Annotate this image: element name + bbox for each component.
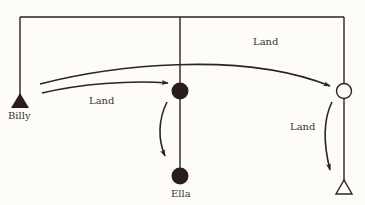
kinship-lines xyxy=(20,17,344,192)
inheritance-diagram: Billy Ella Land Land Land xyxy=(0,0,365,205)
billy-node-triangle-icon xyxy=(11,93,29,108)
right-child-node-open-triangle-icon xyxy=(336,180,352,194)
label-ella: Ella xyxy=(171,188,191,199)
label-land-left: Land xyxy=(89,95,115,106)
ella-node-circle-icon xyxy=(172,168,189,185)
ella-parent-node-circle-icon xyxy=(172,83,189,100)
arrow-billy-to-ella-parent xyxy=(42,82,168,93)
right-parent-node-open-circle-icon xyxy=(337,84,352,99)
arrow-ella-parent-to-ella xyxy=(160,102,167,156)
arrow-right-parent-to-right-child xyxy=(325,102,332,170)
label-land-top: Land xyxy=(253,36,279,47)
label-land-right: Land xyxy=(290,121,316,132)
label-billy: Billy xyxy=(8,110,31,121)
transfer-arrows xyxy=(40,64,332,170)
arrow-billy-to-right-parent xyxy=(40,64,330,86)
